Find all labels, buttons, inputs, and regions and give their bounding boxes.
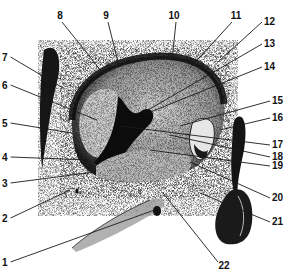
small-dot-2 — [75, 189, 78, 194]
label-4: 4 — [2, 152, 8, 163]
anatomical-diagram: 12345678910111213141516171819202122 — [0, 0, 288, 280]
label-1: 1 — [2, 257, 8, 268]
label-10: 10 — [168, 10, 180, 21]
label-7: 7 — [2, 52, 8, 63]
label-8: 8 — [57, 10, 63, 21]
label-9: 9 — [103, 10, 109, 21]
label-16: 16 — [272, 112, 284, 123]
label-3: 3 — [2, 178, 8, 189]
small-dark-spot — [153, 206, 161, 216]
label-21: 21 — [272, 216, 284, 227]
label-2: 2 — [2, 213, 8, 224]
right-dark-column — [231, 117, 245, 200]
label-22: 22 — [218, 260, 230, 271]
label-12: 12 — [264, 16, 276, 27]
label-11: 11 — [231, 10, 242, 21]
label-5: 5 — [2, 118, 8, 129]
label-20: 20 — [272, 192, 284, 203]
label-15: 15 — [272, 95, 284, 106]
label-13: 13 — [264, 38, 276, 49]
label-17: 17 — [272, 139, 284, 150]
label-19: 19 — [272, 160, 284, 171]
label-14: 14 — [264, 61, 276, 72]
leader-line-1 — [11, 208, 160, 262]
label-6: 6 — [2, 80, 8, 91]
